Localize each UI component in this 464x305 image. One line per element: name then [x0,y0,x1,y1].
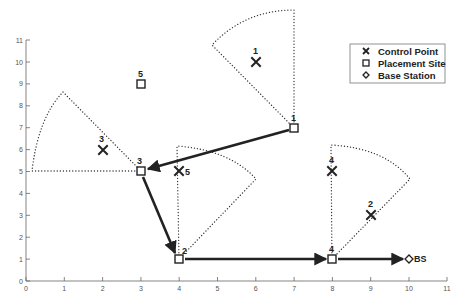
base-station-marker [405,255,413,263]
x-tick-label: 1 [62,285,66,292]
placement-site-label: 2 [182,246,187,256]
placement-site-label: 1 [291,113,296,123]
control-point-label: 5 [185,167,190,177]
y-tick-label: 0 [19,278,23,285]
y-tick-label: 7 [19,124,23,131]
legend-square-icon [363,60,369,66]
y-tick-label: 10 [15,59,23,66]
y-tick-label: 3 [19,212,23,219]
y-tick-label: 9 [19,80,23,87]
y-tick-label: 1 [19,256,23,263]
y-tick-label: 2 [19,234,23,241]
chart-canvas: 0 1 2 3 4 5 6 7 8 9 10 11 [0,0,464,305]
x-tick-label: 3 [139,285,143,292]
placement-site-marker [137,80,145,88]
y-tick-label: 5 [19,168,23,175]
x-axis: 0 1 2 3 4 5 6 7 8 9 10 11 [24,277,451,292]
x-tick-label: 9 [369,285,373,292]
control-point-label: 4 [329,155,334,165]
legend-label-control-point: Control Point [378,46,439,57]
placement-site-label: 4 [329,244,334,254]
x-tick-label: 0 [24,285,28,292]
coverage-sector-site-2 [177,146,256,259]
control-point-marker [252,58,260,66]
legend-label-base-station: Base Station [378,70,436,81]
y-tick-label: 8 [19,102,23,109]
x-tick-label: 5 [216,285,220,292]
control-point-marker [99,146,107,154]
x-tick-label: 4 [177,285,181,292]
coverage-sector-site-3 [32,92,141,171]
y-tick-label: 11 [16,37,23,44]
x-tick-label: 8 [330,285,334,292]
y-tick-label: 6 [19,146,23,153]
placement-site-marker [328,255,336,263]
control-point-marker [175,167,183,175]
x-tick-label: 7 [292,285,296,292]
coverage-sector-site-1 [212,10,294,128]
path-arrow-3-to-2 [143,177,175,253]
legend-label-placement-site: Placement Site [378,58,446,69]
path-arrow-1-to-3 [148,130,289,169]
y-axis: 0 1 2 3 4 5 6 7 8 9 10 11 [15,37,30,285]
control-point-marker [367,211,375,219]
control-point-label: 2 [368,199,373,209]
x-tick-label: 10 [405,285,413,292]
placement-site-label: 5 [138,69,143,79]
x-tick-label: 11 [443,285,450,292]
legend: Control Point Placement Site Base Statio… [350,44,446,83]
control-point-marker [328,167,336,175]
x-tick-label: 2 [101,285,105,292]
placement-site-marker [137,167,145,175]
base-station-label: BS [414,254,427,264]
x-tick-label: 6 [254,285,258,292]
control-point-label: 3 [99,134,104,144]
placement-site-marker [290,124,298,132]
placement-site-label: 3 [137,156,142,166]
placement-site-marker [175,255,183,263]
y-tick-label: 4 [19,190,23,197]
control-point-label: 1 [253,46,258,56]
